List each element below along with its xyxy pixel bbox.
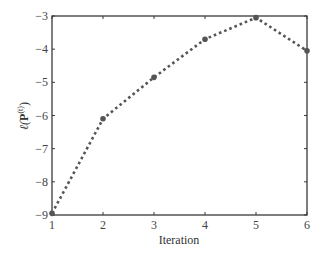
x-axis-ticks: 123456 <box>49 16 310 232</box>
x-axis-label: Iteration <box>159 233 200 247</box>
data-point-marker <box>151 75 157 81</box>
y-axis-label-p: P <box>17 114 31 121</box>
data-point-marker <box>253 15 259 21</box>
x-tick-label: 2 <box>100 218 106 232</box>
x-tick-label: 5 <box>253 218 259 232</box>
plot-border <box>52 16 307 215</box>
y-tick-label: −4 <box>35 42 48 56</box>
line-chart: −3−4−5−6−7−8−9 123456 Iteration ℓ(P(t)) <box>0 0 325 253</box>
data-point-marker <box>100 116 106 122</box>
y-tick-label: −6 <box>35 109 48 123</box>
y-tick-label: −5 <box>35 75 48 89</box>
y-tick-label: −7 <box>35 142 48 156</box>
y-axis-ticks: −3−4−5−6−7−8−9 <box>35 9 307 222</box>
data-point-marker <box>304 48 310 54</box>
y-tick-label: −9 <box>35 208 48 222</box>
series-line <box>52 18 307 214</box>
y-axis-label-close: ) <box>17 102 31 106</box>
y-tick-label: −8 <box>35 175 48 189</box>
x-tick-label: 4 <box>202 218 208 232</box>
y-tick-label: −3 <box>35 9 48 23</box>
x-tick-label: 3 <box>151 218 157 232</box>
plot-frame <box>52 16 307 215</box>
data-point-marker <box>202 36 208 42</box>
x-tick-label: 1 <box>49 218 55 232</box>
data-point-marker <box>49 211 55 217</box>
data-series <box>49 15 310 216</box>
x-tick-label: 6 <box>304 218 310 232</box>
y-axis-label: ℓ(P(t)) <box>16 102 31 130</box>
